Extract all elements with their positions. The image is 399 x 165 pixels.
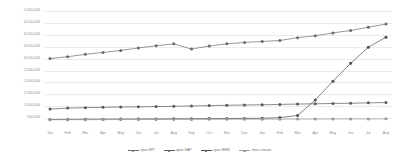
series-line — [50, 24, 386, 59]
series-layer — [44, 11, 392, 130]
plot-area — [44, 11, 392, 130]
x-axis-tick-label: May — [330, 132, 337, 136]
y-axis: 5,000,0004,500,0004,000,0003,500,0003,00… — [0, 11, 42, 130]
data-point-marker — [314, 102, 317, 105]
data-point-marker — [349, 62, 352, 65]
data-point-marker — [190, 118, 193, 121]
legend-item[interactable]: oper-WHD — [201, 149, 230, 153]
legend-swatch-icon — [128, 149, 139, 152]
data-point-marker — [208, 118, 211, 121]
data-point-marker — [367, 46, 370, 49]
x-axis-tick-label: May — [117, 132, 124, 136]
y-axis-tick-label: 1,500,000 — [24, 93, 40, 97]
data-point-marker — [102, 118, 105, 121]
legend-swatch-icon — [201, 149, 212, 152]
data-point-marker — [155, 105, 158, 108]
y-axis-tick-label: 5,000,000 — [24, 9, 40, 13]
data-point-marker — [367, 26, 370, 29]
data-point-marker — [331, 102, 334, 105]
data-point-marker — [278, 118, 281, 121]
data-point-marker — [225, 104, 228, 107]
data-point-marker — [243, 118, 246, 121]
legend-label: oper-SAP — [176, 149, 192, 153]
data-point-marker — [314, 99, 317, 102]
series-line — [50, 103, 386, 110]
legend-swatch-icon — [239, 149, 250, 152]
data-point-marker — [49, 108, 52, 111]
data-point-marker — [296, 103, 299, 106]
data-point-marker — [367, 117, 370, 120]
x-axis-tick-label: Apr — [100, 132, 106, 136]
x-axis: JanFebMarAprMayJunJulAugSepOctNovDecJanF… — [44, 132, 392, 142]
line-chart: 5,000,0004,500,0004,000,0003,500,0003,00… — [0, 0, 399, 165]
y-axis-tick-label: 4,500,000 — [24, 21, 40, 25]
data-point-marker — [296, 36, 299, 39]
x-axis-tick-label: Jul — [154, 132, 159, 136]
data-point-marker — [296, 118, 299, 121]
data-point-marker — [385, 117, 388, 120]
data-point-marker — [49, 57, 52, 60]
x-axis-tick-label: Aug — [171, 132, 177, 136]
data-point-marker — [137, 105, 140, 108]
x-axis-tick-label: Mar — [294, 132, 300, 136]
x-axis-tick-label: Jun — [348, 132, 354, 136]
data-point-marker — [349, 29, 352, 32]
data-point-marker — [137, 118, 140, 121]
data-point-marker — [385, 23, 388, 26]
data-point-marker — [349, 102, 352, 105]
data-point-marker — [66, 118, 69, 121]
data-point-marker — [66, 55, 69, 58]
data-point-marker — [225, 118, 228, 121]
x-axis-tick-label: Dec — [241, 132, 247, 136]
data-point-marker — [172, 42, 175, 45]
data-point-marker — [331, 118, 334, 121]
y-axis-tick-label: 3,000,000 — [24, 57, 40, 61]
data-point-marker — [243, 41, 246, 44]
data-point-marker — [119, 106, 122, 109]
data-point-marker — [349, 117, 352, 120]
data-point-marker — [385, 101, 388, 104]
data-point-marker — [102, 106, 105, 109]
legend-label: oper-HPI — [140, 149, 154, 153]
legend-item[interactable]: oper-SAP — [164, 149, 192, 153]
y-axis-tick-label: 3,500,000 — [24, 45, 40, 49]
data-point-marker — [367, 101, 370, 104]
data-point-marker — [385, 36, 388, 39]
data-point-marker — [190, 104, 193, 107]
x-axis-tick-label: Feb — [65, 132, 71, 136]
data-point-marker — [314, 34, 317, 37]
data-point-marker — [102, 51, 105, 54]
data-point-marker — [172, 118, 175, 121]
x-axis-tick-label: Oct — [206, 132, 212, 136]
x-axis-tick-label: Mar — [82, 132, 88, 136]
y-axis-tick-label: 4,000,000 — [24, 33, 40, 37]
x-axis-tick-label: Jan — [47, 132, 53, 136]
data-point-marker — [296, 114, 299, 117]
data-point-marker — [225, 42, 228, 45]
data-point-marker — [314, 118, 317, 121]
x-axis-tick-label: Jun — [136, 132, 142, 136]
data-point-marker — [84, 106, 87, 109]
data-point-marker — [137, 46, 140, 49]
data-point-marker — [261, 118, 264, 121]
data-point-marker — [190, 48, 193, 51]
data-point-marker — [84, 118, 87, 121]
y-axis-tick-label: 2,500,000 — [24, 69, 40, 73]
data-point-marker — [261, 103, 264, 106]
data-point-marker — [119, 49, 122, 52]
data-point-marker — [243, 104, 246, 107]
legend-label: oper-WHD — [213, 149, 230, 153]
legend-swatch-icon — [164, 149, 175, 152]
x-axis-tick-label: Jan — [259, 132, 265, 136]
data-point-marker — [66, 107, 69, 110]
x-axis-tick-label: Aug — [383, 132, 389, 136]
legend-item[interactable]: mocc-house — [239, 149, 271, 153]
data-point-marker — [331, 80, 334, 83]
x-axis-tick-label: Feb — [277, 132, 283, 136]
x-axis-tick-label: Jul — [366, 132, 371, 136]
data-point-marker — [331, 31, 334, 34]
data-point-marker — [208, 104, 211, 107]
data-point-marker — [119, 118, 122, 121]
y-axis-tick-label: 500,000 — [27, 116, 40, 120]
legend-item[interactable]: oper-HPI — [128, 149, 155, 153]
